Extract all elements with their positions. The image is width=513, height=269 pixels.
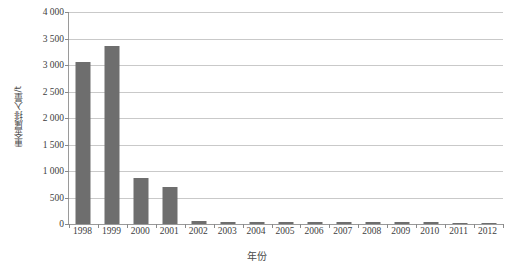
x-tick-mark bbox=[503, 224, 504, 228]
x-tick-label: 2008 bbox=[362, 226, 381, 236]
bar-slot bbox=[416, 12, 445, 224]
y-tick-label: 4 000 bbox=[43, 7, 64, 17]
y-tick-label: 1 000 bbox=[43, 166, 64, 176]
bar-slot bbox=[98, 12, 127, 224]
bar[interactable] bbox=[105, 46, 120, 224]
x-tick-label: 2010 bbox=[420, 226, 439, 236]
y-tick-label: 1 500 bbox=[43, 140, 64, 150]
x-axis-title: 年份 bbox=[0, 248, 513, 263]
x-tick-label: 2004 bbox=[247, 226, 266, 236]
bar[interactable] bbox=[250, 222, 265, 224]
x-tick-label: 2000 bbox=[131, 226, 150, 236]
bar[interactable] bbox=[365, 222, 380, 224]
x-tick-label: 2002 bbox=[189, 226, 208, 236]
x-tick-label: 1999 bbox=[102, 226, 121, 236]
y-tick-label: 2 500 bbox=[43, 87, 64, 97]
y-axis-tick-labels: 05001 0001 5002 0002 5003 0003 5004 000 bbox=[24, 12, 68, 224]
y-tick-mark bbox=[65, 39, 69, 40]
bar-slot bbox=[156, 12, 185, 224]
y-tick-mark bbox=[65, 145, 69, 146]
bar[interactable] bbox=[163, 187, 178, 224]
bar[interactable] bbox=[336, 222, 351, 224]
bar-slot bbox=[272, 12, 301, 224]
x-tick-label: 2001 bbox=[160, 226, 179, 236]
x-tick-label: 2005 bbox=[276, 226, 295, 236]
x-tick-label: 2006 bbox=[304, 226, 323, 236]
x-tick-label: 2009 bbox=[391, 226, 410, 236]
y-tick-label: 2 000 bbox=[43, 113, 64, 123]
bar[interactable] bbox=[423, 222, 438, 224]
x-axis-tick-labels: 1998199920002001200220032004200520062007… bbox=[68, 226, 502, 242]
bar[interactable] bbox=[307, 222, 322, 224]
x-tick-label: 2012 bbox=[478, 226, 497, 236]
bar-slot bbox=[329, 12, 358, 224]
bar[interactable] bbox=[76, 62, 91, 224]
bar-slot bbox=[185, 12, 214, 224]
x-tick-label: 2007 bbox=[333, 226, 352, 236]
plot-area bbox=[68, 12, 503, 225]
y-tick-label: 500 bbox=[50, 193, 64, 203]
bar-slot bbox=[387, 12, 416, 224]
y-tick-mark bbox=[65, 65, 69, 66]
bar-slot bbox=[358, 12, 387, 224]
x-tick-label: 1998 bbox=[73, 226, 92, 236]
bar-slot bbox=[300, 12, 329, 224]
y-tick-mark bbox=[65, 198, 69, 199]
bar[interactable] bbox=[192, 221, 207, 224]
y-tick-label: 0 bbox=[59, 219, 64, 229]
bar-slot bbox=[69, 12, 98, 224]
y-tick-label: 3 000 bbox=[43, 60, 64, 70]
bar-slot bbox=[445, 12, 474, 224]
y-axis-title-text: 重金属排入量/t bbox=[11, 86, 24, 147]
bar[interactable] bbox=[134, 178, 149, 224]
bar[interactable] bbox=[278, 222, 293, 224]
bar-slot bbox=[214, 12, 243, 224]
x-tick-label: 2003 bbox=[218, 226, 237, 236]
bar[interactable] bbox=[452, 223, 467, 224]
x-tick-label: 2011 bbox=[449, 226, 468, 236]
y-tick-mark bbox=[65, 12, 69, 13]
bar-slot bbox=[127, 12, 156, 224]
bars-layer bbox=[69, 12, 503, 224]
x-axis-title-text: 年份 bbox=[247, 251, 267, 262]
y-tick-mark bbox=[65, 118, 69, 119]
bar-chart: 重金属排入量/t 05001 0001 5002 0002 5003 0003 … bbox=[0, 0, 513, 269]
y-tick-mark bbox=[65, 171, 69, 172]
y-tick-mark bbox=[65, 92, 69, 93]
bar[interactable] bbox=[394, 222, 409, 224]
bar[interactable] bbox=[481, 223, 496, 224]
y-tick-label: 3 500 bbox=[43, 34, 64, 44]
bar-slot bbox=[243, 12, 272, 224]
bar[interactable] bbox=[221, 222, 236, 224]
bar-slot bbox=[474, 12, 503, 224]
